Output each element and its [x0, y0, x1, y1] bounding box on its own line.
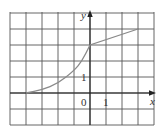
y-axis-label: y	[80, 9, 86, 21]
origin-label: 0	[81, 96, 87, 108]
y-axis-arrow-icon	[87, 10, 92, 17]
x-tick-label: 1	[103, 96, 109, 108]
grid	[10, 12, 154, 125]
x-axis-label: x	[149, 95, 155, 107]
y-tick-label: 1	[81, 71, 87, 83]
function-graph: y x 0 1 1	[0, 0, 165, 131]
